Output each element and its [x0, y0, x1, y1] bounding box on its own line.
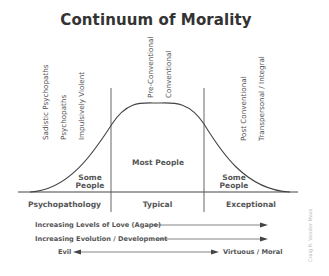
label-sadistic-psychopaths: Sadistic Psychopaths [41, 64, 50, 140]
label-psychopaths: Psychopaths [59, 95, 68, 140]
some-people-right: SomePeople [212, 174, 256, 190]
arrow-head-right-icon [260, 223, 268, 228]
label-impulsively-violent: Impulsively Violent [77, 72, 86, 140]
arrow-head-right-icon [211, 250, 219, 255]
category-psychopathology: Psychopathology [18, 200, 111, 209]
arrow-head-left-icon [73, 250, 81, 255]
label-pre-conventional: Pre-Conventional [146, 37, 155, 98]
category-typical: Typical [111, 200, 204, 209]
arrow-label-virtuous: Virtuous / Moral [223, 248, 283, 256]
arrow-label-evolution: Increasing Evolution / Development [35, 235, 167, 243]
author-credit: Craig R. Vander Maas [307, 209, 313, 262]
most-people: Most People [120, 159, 196, 167]
arrow-label-love: Increasing Levels of Love (Agape) [35, 221, 161, 229]
category-exceptional: Exceptional [204, 200, 298, 209]
label-conventional: Conventional [164, 51, 173, 98]
label-transpersonal-integral: Transpersonal / Integral [257, 56, 266, 141]
arrow-head-right-icon [260, 237, 268, 242]
arrow-label-evil: Evil [58, 248, 71, 256]
some-people-left: SomePeople [68, 174, 112, 190]
label-post-conventional: Post Conventional [239, 76, 248, 141]
